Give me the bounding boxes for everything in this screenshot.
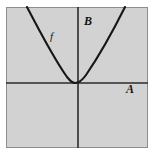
- figure-svg: B A f: [0, 0, 154, 158]
- horizontal-axis-label: A: [125, 82, 134, 96]
- plot-panel: [7, 8, 148, 148]
- math-figure: B A f: [0, 0, 154, 158]
- vertical-axis-label: B: [83, 14, 92, 28]
